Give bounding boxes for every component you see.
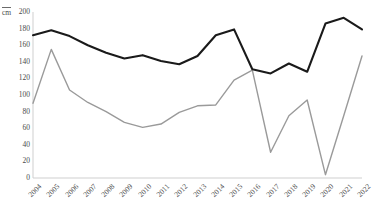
x-axis-tick-labels: 2004200520062007200820092010201120122013…: [0, 0, 370, 207]
line-chart: cm 200180160140120100806040200 200420052…: [0, 0, 370, 207]
